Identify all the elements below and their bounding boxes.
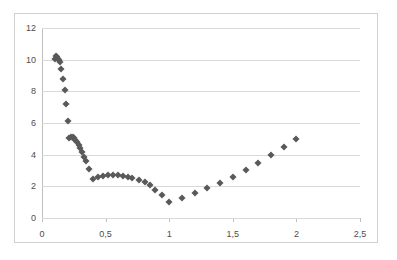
data-point-marker xyxy=(242,166,249,173)
data-point-marker xyxy=(229,173,236,180)
data-point-marker xyxy=(59,75,66,82)
x-tick-label: 0,5 xyxy=(86,230,126,239)
data-point-marker xyxy=(217,179,224,186)
data-point-marker xyxy=(159,191,166,198)
data-point-marker xyxy=(255,159,262,166)
data-point-marker xyxy=(83,157,90,164)
chart-figure: 024681012 00,511,522,5 xyxy=(0,0,397,260)
data-point-marker xyxy=(166,199,173,206)
data-point-marker xyxy=(63,100,70,107)
x-tick-label: 2,5 xyxy=(340,230,380,239)
data-point-marker xyxy=(129,175,136,182)
gridline-horizontal xyxy=(42,155,360,156)
plot-area xyxy=(42,28,360,218)
x-tick-label: 2 xyxy=(276,230,316,239)
gridline-horizontal xyxy=(42,28,360,29)
gridline-horizontal xyxy=(42,60,360,61)
x-tick-label: 1,5 xyxy=(213,230,253,239)
data-point-marker xyxy=(178,194,185,201)
gridline-horizontal xyxy=(42,91,360,92)
gridline-horizontal xyxy=(42,218,360,219)
data-point-marker xyxy=(191,189,198,196)
gridline-horizontal xyxy=(42,123,360,124)
x-tick-label: 1 xyxy=(149,230,189,239)
data-point-marker xyxy=(85,165,92,172)
data-point-marker xyxy=(293,135,300,142)
data-point-marker xyxy=(280,144,287,151)
x-tick-label: 0 xyxy=(22,230,62,239)
x-tick-mark xyxy=(360,218,361,222)
data-point-marker xyxy=(58,66,65,73)
data-point-marker xyxy=(267,152,274,159)
gridline-horizontal xyxy=(42,186,360,187)
